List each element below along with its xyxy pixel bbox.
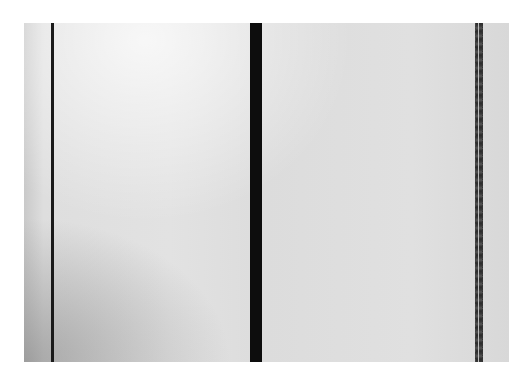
center-wide-band	[250, 23, 262, 362]
painting-canvas	[24, 23, 509, 362]
right-stripe-gap	[478, 23, 479, 362]
left-thin-stripe	[51, 23, 54, 362]
right-ragged-stripe	[475, 23, 483, 362]
